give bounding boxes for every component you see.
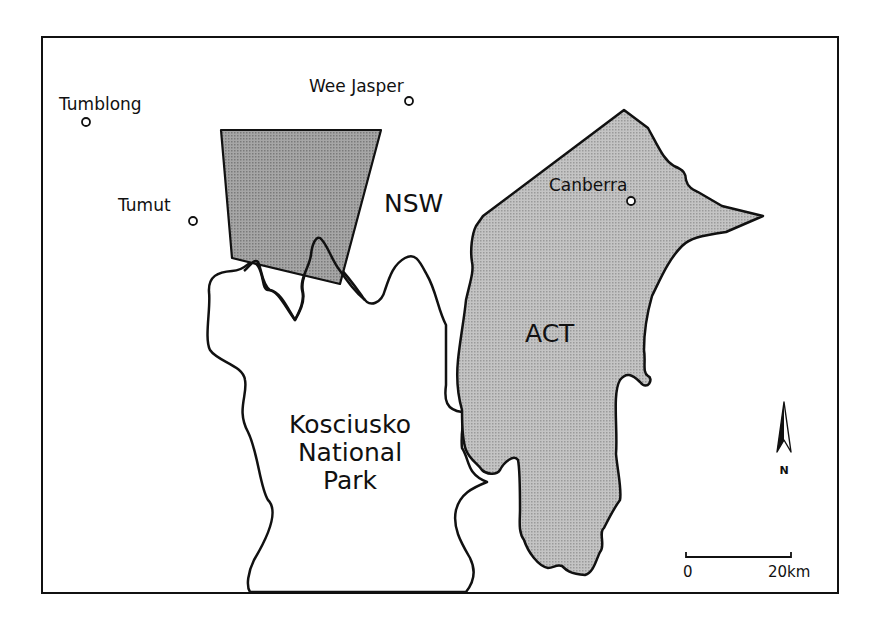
scale-start-label: 0 <box>683 563 693 581</box>
park-label-line2: National <box>298 438 402 467</box>
town-marker-icon <box>82 118 90 126</box>
region-label-act: ACT <box>525 319 575 348</box>
town-marker-icon <box>189 217 197 225</box>
park-label-line1: Kosciusko <box>289 410 411 439</box>
town-marker-icon <box>405 97 413 105</box>
park-label-line3: Park <box>323 466 378 495</box>
town-marker-icon <box>627 197 635 205</box>
map: Tumblong Wee Jasper Tumut Canberra NSW A… <box>0 0 880 620</box>
town-label: Tumblong <box>58 94 142 114</box>
scale-end-label: 20km <box>768 563 810 581</box>
region-label-nsw: NSW <box>384 189 443 218</box>
town-label: Wee Jasper <box>309 76 404 96</box>
north-label: N <box>779 464 788 477</box>
town-label: Tumut <box>117 195 171 215</box>
town-label: Canberra <box>549 175 627 195</box>
